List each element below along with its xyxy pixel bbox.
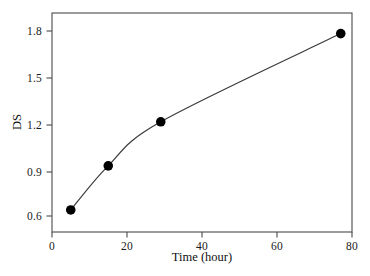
x-axis-ticks <box>52 232 352 238</box>
y-tick-label-1.5: 1.5 <box>14 72 42 84</box>
x-tick-label-80: 80 <box>346 240 358 252</box>
data-point <box>103 161 113 171</box>
x-tick-label-20: 20 <box>121 240 133 252</box>
y-axis-ticks <box>47 31 53 216</box>
y-tick-label-0.6: 0.6 <box>14 210 42 222</box>
chart-figure: 1.8 1.5 1.2 0.9 0.6 0 20 40 60 80 Time (… <box>0 0 370 276</box>
data-point <box>336 29 346 39</box>
plot-background <box>52 13 352 232</box>
data-point <box>156 117 166 127</box>
y-tick-label-1.8: 1.8 <box>14 25 42 37</box>
y-axis-title: DS <box>10 114 25 130</box>
data-point <box>66 205 76 215</box>
y-tick-label-0.9: 0.9 <box>14 166 42 178</box>
plot-canvas <box>0 0 370 276</box>
x-axis-title: Time (hour) <box>172 250 232 265</box>
x-tick-label-0: 0 <box>49 240 55 252</box>
x-tick-label-60: 60 <box>271 240 283 252</box>
